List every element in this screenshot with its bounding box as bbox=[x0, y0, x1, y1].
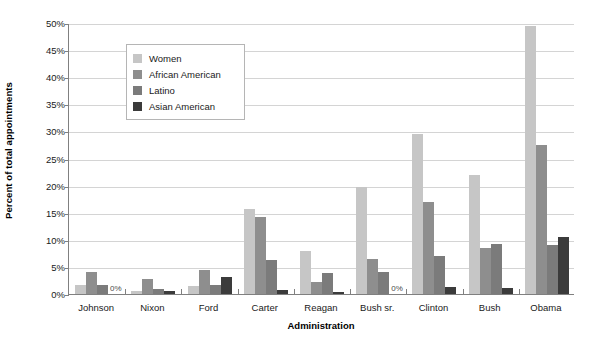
x-axis-tick-label: Johnson bbox=[68, 302, 124, 313]
bar bbox=[491, 244, 502, 294]
bar bbox=[164, 291, 175, 294]
y-axis-tick-label: 35% bbox=[21, 99, 65, 110]
legend-item-label: Asian American bbox=[149, 101, 215, 112]
bar bbox=[322, 273, 333, 294]
bar bbox=[75, 285, 86, 294]
x-axis-tick-label: Carter bbox=[237, 302, 293, 313]
x-axis-tick-label: Nixon bbox=[124, 302, 180, 313]
x-axis-tick-mark bbox=[406, 289, 407, 294]
x-axis-tick-mark bbox=[238, 289, 239, 294]
bar-group bbox=[238, 24, 294, 294]
bar bbox=[277, 290, 288, 294]
y-axis-tick-label: 5% bbox=[21, 262, 65, 273]
x-axis-tick-label: Bush bbox=[462, 302, 518, 313]
zero-value-label: 0% bbox=[110, 284, 122, 293]
bar bbox=[445, 287, 456, 294]
legend-item-label: African American bbox=[149, 69, 221, 80]
bar bbox=[153, 289, 164, 294]
x-axis-tick-label: Ford bbox=[180, 302, 236, 313]
legend-swatch-icon bbox=[133, 54, 142, 63]
bar-group bbox=[294, 24, 350, 294]
bar bbox=[434, 256, 445, 294]
bar bbox=[558, 237, 569, 294]
bar bbox=[356, 187, 367, 294]
bar-group: 0% bbox=[350, 24, 406, 294]
y-axis-title: Percent of total appointments bbox=[0, 0, 16, 300]
y-axis-tick-label: 45% bbox=[21, 45, 65, 56]
x-axis-tick-label: Bush sr. bbox=[349, 302, 405, 313]
bar bbox=[188, 286, 199, 294]
x-axis-tick-mark bbox=[125, 289, 126, 294]
x-axis-tick-label: Obama bbox=[518, 302, 574, 313]
bar bbox=[536, 145, 547, 294]
y-axis-tick-label: 20% bbox=[21, 181, 65, 192]
bar bbox=[367, 259, 378, 294]
bar bbox=[311, 282, 322, 294]
bar bbox=[300, 251, 311, 294]
bar bbox=[97, 285, 108, 294]
y-axis-tick-label: 25% bbox=[21, 154, 65, 165]
legend-item-label: Latino bbox=[149, 85, 175, 96]
y-axis-tick-label: 10% bbox=[21, 235, 65, 246]
bar-chart: Percent of total appointments 0%0% 0%5%1… bbox=[0, 0, 589, 351]
y-axis-title-text: Percent of total appointments bbox=[3, 82, 14, 219]
gridline bbox=[69, 294, 574, 295]
bar bbox=[210, 285, 221, 294]
legend-item-label: Women bbox=[149, 53, 182, 64]
legend-item: Asian American bbox=[133, 98, 237, 114]
chart-legend: WomenAfrican AmericanLatinoAsian America… bbox=[126, 44, 245, 120]
bar bbox=[547, 245, 558, 294]
legend-item: Women bbox=[133, 50, 237, 66]
bar bbox=[502, 288, 513, 294]
bar bbox=[378, 272, 389, 294]
y-axis-tick-label: 0% bbox=[21, 289, 65, 300]
bar-group: 0% bbox=[69, 24, 125, 294]
bar bbox=[131, 291, 142, 294]
x-axis-tick-mark bbox=[294, 289, 295, 294]
bar bbox=[423, 202, 434, 294]
zero-value-label: 0% bbox=[391, 284, 403, 293]
bar bbox=[525, 26, 536, 294]
bar bbox=[469, 175, 480, 294]
y-axis-tick-label: 30% bbox=[21, 126, 65, 137]
bar bbox=[266, 260, 277, 294]
x-axis-tick-label: Clinton bbox=[405, 302, 461, 313]
y-axis-tick-label: 40% bbox=[21, 72, 65, 83]
legend-item: Latino bbox=[133, 82, 237, 98]
bar bbox=[480, 248, 491, 294]
legend-swatch-icon bbox=[133, 102, 142, 111]
bar bbox=[221, 277, 232, 294]
bar-group bbox=[463, 24, 519, 294]
y-axis-tick-mark bbox=[65, 295, 69, 296]
bar bbox=[199, 270, 210, 294]
bar bbox=[412, 134, 423, 294]
x-axis-tick-mark bbox=[463, 289, 464, 294]
bar bbox=[142, 279, 153, 294]
x-axis-tick-mark bbox=[350, 289, 351, 294]
x-axis-tick-mark bbox=[519, 289, 520, 294]
y-axis-tick-label: 15% bbox=[21, 208, 65, 219]
legend-swatch-icon bbox=[133, 70, 142, 79]
bar bbox=[244, 209, 255, 294]
x-axis-title: Administration bbox=[68, 320, 574, 331]
legend-swatch-icon bbox=[133, 86, 142, 95]
y-axis-tick-label: 50% bbox=[21, 18, 65, 29]
bar bbox=[333, 292, 344, 294]
bar-group bbox=[406, 24, 462, 294]
legend-item: African American bbox=[133, 66, 237, 82]
bar bbox=[86, 272, 97, 294]
bar bbox=[255, 217, 266, 295]
bar-group bbox=[519, 24, 575, 294]
x-axis-tick-label: Reagan bbox=[293, 302, 349, 313]
x-axis-tick-mark bbox=[181, 289, 182, 294]
